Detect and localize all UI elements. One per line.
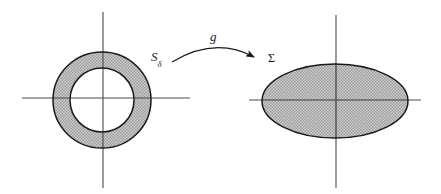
label-g: g <box>210 30 217 43</box>
label-s-delta-subscript: δ <box>158 59 162 69</box>
left-figure-group <box>22 12 190 188</box>
label-sigma: Σ <box>268 52 275 64</box>
mapping-arrow-group <box>172 48 254 62</box>
right-figure-group <box>249 15 421 188</box>
figure-canvas: Sδ g Σ <box>0 0 441 194</box>
mapping-arrow-curve <box>172 48 254 62</box>
label-s-delta: Sδ <box>151 50 162 66</box>
label-s-delta-base: S <box>151 49 158 64</box>
diagram-svg <box>0 0 441 194</box>
